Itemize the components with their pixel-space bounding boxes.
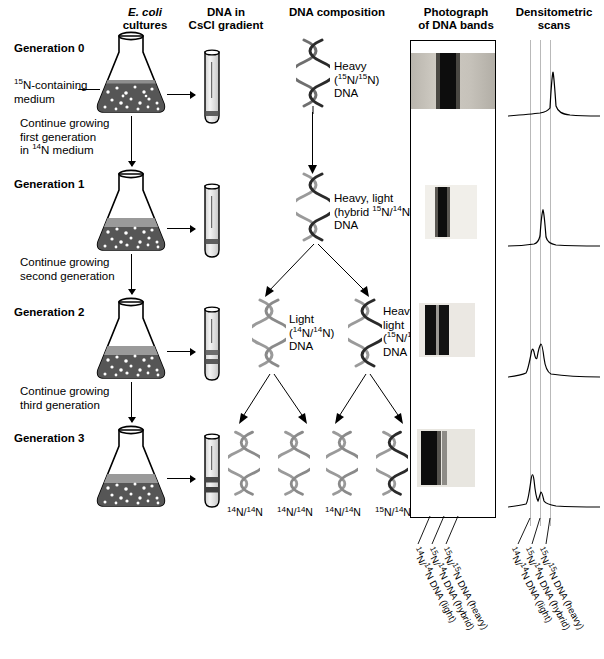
generation-label-1: Generation 1 bbox=[14, 178, 84, 191]
cscl-tube-generation-1 bbox=[198, 182, 226, 260]
dna-label-gen0-line2: (15N/15N) bbox=[334, 74, 379, 88]
step2-line1: Continue growing bbox=[20, 256, 115, 270]
step1-annotation: Continue growing first generation in 14N… bbox=[20, 117, 110, 158]
photograph-panel bbox=[410, 40, 496, 518]
dna-helix-generation-0 bbox=[296, 38, 330, 114]
flow-arrow-gen1-gen2 bbox=[131, 254, 132, 294]
transfer-arrow-gen0 bbox=[167, 94, 195, 95]
column-header-cscl-line2: CsCl gradient bbox=[178, 19, 274, 32]
branch-gen2-light-to-gen3 bbox=[228, 372, 328, 430]
column-header-cscl-line1: DNA in bbox=[178, 6, 274, 19]
transfer-arrow-gen3 bbox=[167, 478, 195, 479]
isotope-label-gen3-b: 14N/14N bbox=[272, 506, 318, 518]
generation-label-0: Generation 0 bbox=[14, 42, 84, 55]
flow-arrow-gen0-gen1 bbox=[131, 116, 132, 166]
branch-gen1-to-gen2 bbox=[248, 242, 388, 304]
densitometric-scan-generation-3 bbox=[506, 454, 602, 514]
generation-label-3: Generation 3 bbox=[14, 432, 84, 445]
column-header-photograph-line2: of DNA bands bbox=[408, 19, 504, 32]
step3-line2: third generation bbox=[20, 399, 110, 413]
column-header-densitometric-line1: Densitometric bbox=[508, 6, 600, 19]
dna-label-gen2-light-line3: DNA bbox=[289, 340, 334, 354]
generation-label-2: Generation 2 bbox=[14, 306, 84, 319]
dna-label-generation-2-light: Light (14N/14N) DNA bbox=[289, 313, 334, 354]
isotope-label-gen3-a: 14N/14N bbox=[222, 506, 268, 518]
dna-label-generation-1: Heavy, light (hybrid 15N/14N) DNA bbox=[334, 192, 414, 233]
flask-generation-0 bbox=[86, 30, 176, 120]
dna-helix-generation-3-b bbox=[278, 430, 310, 502]
column-header-densitometric: Densitometric scans bbox=[508, 6, 600, 32]
flask-generation-1 bbox=[86, 168, 176, 258]
dna-helix-generation-2-hybrid bbox=[348, 298, 382, 374]
medium-sup: 15 bbox=[14, 77, 23, 86]
dna-label-gen1-line3: DNA bbox=[334, 219, 414, 233]
column-header-cscl: DNA in CsCl gradient bbox=[178, 6, 274, 32]
cscl-tube-generation-2 bbox=[198, 305, 226, 383]
densitometric-scans-panel bbox=[506, 36, 602, 522]
isotope-label-gen3-c: 14N/14N bbox=[320, 506, 366, 518]
flask-generation-2 bbox=[86, 296, 176, 386]
dna-label-generation-0: Heavy (15N/15N) DNA bbox=[334, 60, 379, 101]
dna-helix-generation-1 bbox=[296, 172, 330, 248]
cscl-tube-generation-0 bbox=[198, 48, 226, 126]
medium-annotation: 15N-containing medium bbox=[14, 79, 87, 106]
densitometric-scan-generation-0 bbox=[506, 64, 602, 124]
column-header-composition-line1: DNA composition bbox=[272, 6, 402, 19]
transfer-arrow-gen2 bbox=[167, 351, 195, 352]
step1-line3: in 14N medium bbox=[20, 144, 110, 158]
dna-helix-generation-3-d bbox=[376, 430, 408, 502]
dna-helix-generation-3-c bbox=[326, 430, 358, 502]
transfer-arrow-gen1 bbox=[167, 228, 195, 229]
dna-label-gen0-line3: DNA bbox=[334, 87, 379, 101]
dna-helix-generation-2-light bbox=[252, 298, 286, 374]
helix-connector-gen0-gen1 bbox=[312, 112, 313, 170]
step3-annotation: Continue growing third generation bbox=[20, 385, 110, 412]
densitometric-scan-generation-1 bbox=[506, 194, 602, 254]
flow-arrow-gen2-gen3 bbox=[131, 382, 132, 422]
branch-gen2-hybrid-to-gen3 bbox=[324, 372, 424, 430]
column-header-densitometric-line2: scans bbox=[508, 19, 600, 32]
photograph-bands-image bbox=[411, 41, 495, 517]
dna-label-gen1-line2: (hybrid 15N/14N) bbox=[334, 206, 414, 220]
step2-annotation: Continue growing second generation bbox=[20, 256, 115, 283]
medium-annotation-line2: medium bbox=[14, 93, 87, 107]
step2-line2: second generation bbox=[20, 270, 115, 284]
medium-annotation-line1: 15N-containing bbox=[14, 79, 87, 93]
flask-generation-3 bbox=[86, 424, 176, 514]
cscl-tube-generation-3 bbox=[198, 432, 226, 510]
densitometric-scan-generation-2 bbox=[506, 324, 602, 384]
dna-helix-generation-3-a bbox=[228, 430, 260, 502]
dna-label-gen2-light-line2: (14N/14N) bbox=[289, 327, 334, 341]
column-header-photograph-line1: Photograph bbox=[408, 6, 504, 19]
column-header-photograph: Photograph of DNA bands bbox=[408, 6, 504, 32]
step3-line1: Continue growing bbox=[20, 385, 110, 399]
column-header-composition: DNA composition bbox=[272, 6, 402, 19]
